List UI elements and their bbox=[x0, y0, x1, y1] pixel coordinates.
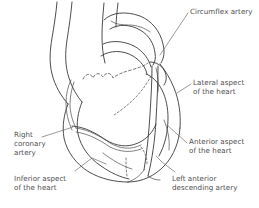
label-rca-line1: Right bbox=[14, 130, 46, 139]
arch-branch-tick-1 bbox=[111, 21, 128, 25]
right-ventricle-surface-stroke bbox=[103, 153, 132, 169]
label-circumflex-artery-line1: Circumflex artery bbox=[190, 7, 253, 16]
label-lad-line1: Left anterior bbox=[172, 174, 237, 183]
label-lateral-aspect-line1: Lateral aspect bbox=[193, 78, 244, 87]
pulmonary-trunk-upper-edge bbox=[103, 42, 151, 67]
label-anterior-aspect-line1: Anterior aspect bbox=[189, 137, 244, 146]
label-left-anterior-descending-artery: Left anterior descending artery bbox=[172, 174, 237, 192]
label-right-coronary-artery: Right coronary artery bbox=[14, 130, 46, 158]
heart-outline-lateral-border bbox=[160, 64, 180, 128]
label-lateral-aspect-of-the-heart: Lateral aspect of the heart bbox=[193, 78, 244, 96]
atrioventricular-groove bbox=[72, 124, 156, 146]
label-circumflex-artery: Circumflex artery bbox=[190, 7, 253, 16]
leader-anterior-aspect bbox=[167, 125, 187, 143]
leader-circumflex-artery bbox=[160, 13, 188, 55]
circumflex-artery-dashed-course bbox=[114, 76, 151, 115]
right-coronary-artery-proximal-b bbox=[66, 80, 72, 130]
pulmonary-trunk-lower-edge bbox=[101, 52, 147, 75]
label-rca-line2: coronary bbox=[14, 139, 46, 148]
label-inferior-aspect-line2: of the heart bbox=[14, 183, 66, 192]
leader-lateral-aspect bbox=[177, 84, 191, 93]
label-inferior-aspect-line1: Inferior aspect bbox=[14, 174, 66, 183]
label-lad-line2: descending artery bbox=[172, 183, 237, 192]
atrial-appendage-dashed-border bbox=[83, 63, 148, 79]
leader-right-coronary-artery bbox=[42, 127, 73, 137]
arch-branch-tick-2 bbox=[129, 25, 150, 32]
label-anterior-aspect-line2: of the heart bbox=[189, 146, 244, 155]
label-lateral-aspect-line2: of the heart bbox=[193, 87, 244, 96]
left-atrium-base-contour bbox=[146, 74, 168, 156]
label-rca-line3: artery bbox=[14, 148, 46, 157]
heart-coronary-artery-diagram: Circumflex artery Lateral aspect of the … bbox=[0, 0, 259, 208]
right-ventricle-anterior-contour bbox=[77, 102, 129, 179]
heart-outline-left-border bbox=[63, 104, 128, 182]
label-inferior-aspect-of-the-heart: Inferior aspect of the heart bbox=[14, 174, 66, 192]
label-anterior-aspect-of-the-heart: Anterior aspect of the heart bbox=[189, 137, 244, 155]
